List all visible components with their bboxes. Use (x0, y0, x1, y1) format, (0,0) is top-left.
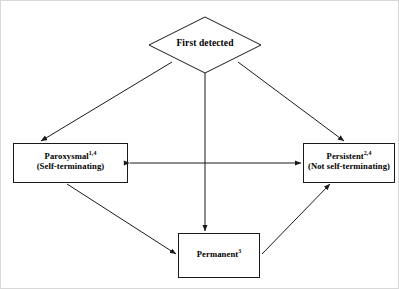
node-first-detected-shape (149, 17, 261, 73)
edge-first-to-persistent (238, 62, 344, 141)
node-permanent-shape (179, 234, 260, 278)
diagram-canvas: First detected Paroxysmal1,4 (Self-termi… (0, 0, 399, 289)
node-persistent-shape (304, 144, 395, 183)
edge-paroxysmal-to-permanent (67, 184, 176, 254)
edge-permanent-to-persistent (262, 184, 330, 254)
node-paroxysmal-shape (14, 144, 128, 183)
diagram-graphics (0, 0, 399, 289)
edge-first-to-paroxysmal (41, 62, 172, 141)
